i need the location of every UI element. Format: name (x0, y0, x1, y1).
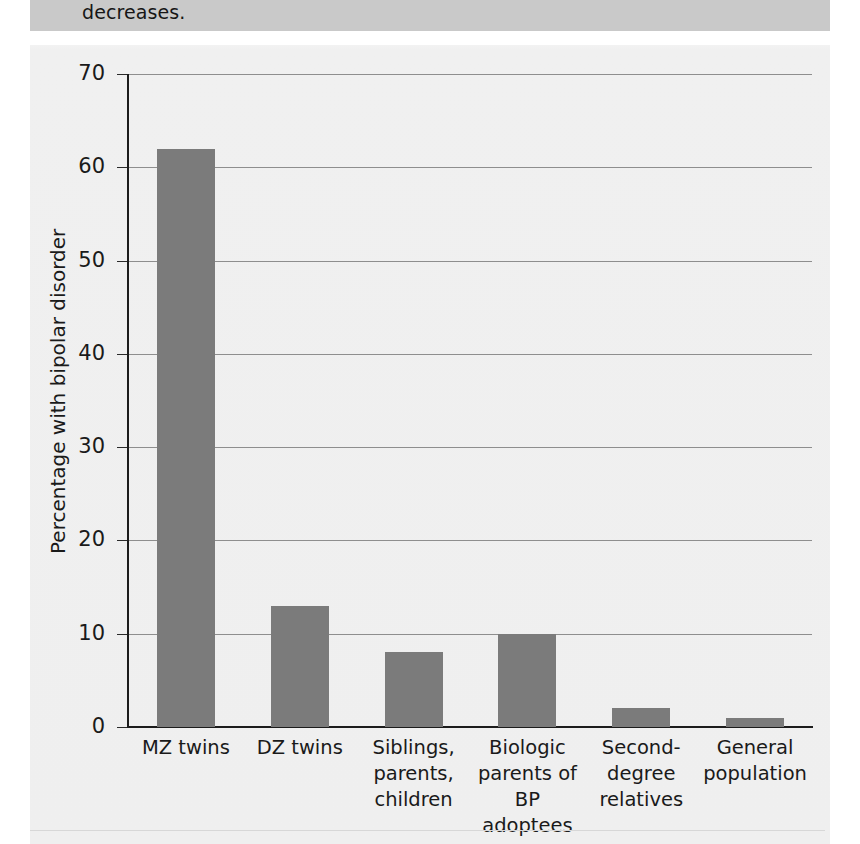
y-axis-tick-label: 70 (53, 61, 105, 85)
x-axis-tick-label: Second-degreerelatives (584, 735, 698, 813)
y-axis-tick-label: 60 (53, 154, 105, 178)
gridline (129, 167, 812, 168)
gridline (129, 447, 812, 448)
bar (498, 634, 556, 727)
x-axis-tick-label: Generalpopulation (698, 735, 812, 787)
y-axis-tick-label: 40 (53, 341, 105, 365)
x-axis-label-line: Biologic (471, 735, 585, 761)
bottom-rule (30, 830, 825, 831)
x-axis-tick-label: Siblings,parents,children (357, 735, 471, 813)
y-axis-tick-label: 10 (53, 621, 105, 645)
y-axis-tick-label: 0 (53, 714, 105, 738)
x-axis-label-line: relatives (584, 787, 698, 813)
gridline (129, 354, 812, 355)
x-axis-label-line: DZ twins (243, 735, 357, 761)
y-axis-line (127, 74, 129, 728)
gridline (129, 634, 812, 635)
bar (271, 606, 329, 727)
bar (157, 149, 215, 727)
gridline (129, 261, 812, 262)
x-axis-label-line: Second- (584, 735, 698, 761)
x-axis-label-line: population (698, 761, 812, 787)
bar (612, 708, 670, 727)
x-axis-label-line: degree (584, 761, 698, 787)
x-axis-tick-label: MZ twins (129, 735, 243, 761)
x-axis-label-line: Siblings, (357, 735, 471, 761)
y-axis-tick-label: 50 (53, 248, 105, 272)
x-axis-line (127, 726, 813, 728)
y-axis-tick-label: 30 (53, 434, 105, 458)
x-axis-label-line: parents of (471, 761, 585, 787)
gridline (129, 74, 812, 75)
x-axis-label-line: General (698, 735, 812, 761)
gridline (129, 540, 812, 541)
y-axis-title: Percentage with bipolar disorder (46, 254, 70, 554)
x-axis-label-line: BP adoptees (471, 787, 585, 839)
x-axis-label-line: MZ twins (129, 735, 243, 761)
x-axis-label-line: children (357, 787, 471, 813)
bar (385, 652, 443, 727)
bar (726, 718, 784, 727)
y-axis-tick-label: 20 (53, 527, 105, 551)
bipolar-heritability-bar-chart: Percentage with bipolar disorder 0102030… (0, 0, 860, 844)
figure-page: decreases. Percentage with bipolar disor… (0, 0, 860, 844)
x-axis-tick-label: Biologicparents ofBP adoptees (471, 735, 585, 839)
x-axis-label-line: parents, (357, 761, 471, 787)
x-axis-tick-label: DZ twins (243, 735, 357, 761)
